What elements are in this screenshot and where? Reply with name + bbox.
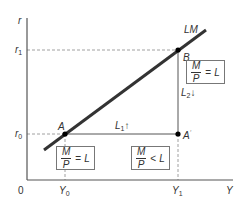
point-b — [175, 47, 180, 52]
r0-label: r0 — [15, 129, 22, 140]
y-axis-label: r — [18, 16, 21, 26]
diagram-canvas — [0, 0, 248, 207]
m-over-p: MP — [191, 61, 201, 84]
origin-label: 0 — [18, 186, 24, 196]
condition-box-b: MP = L — [186, 60, 225, 84]
lm-label: LM — [184, 25, 198, 35]
l1-label: L1↑ — [115, 121, 129, 132]
lm-diagram: r Y 0 r1 r0 Y0 Y1 LM A A′ B L1↑ L2↓ MP =… — [0, 0, 248, 207]
point-a-prime-label: A′ — [183, 129, 191, 141]
point-a-prime — [175, 131, 180, 136]
m-over-p: MP — [136, 147, 146, 170]
point-a-label: A — [58, 122, 65, 132]
condition-box-a-prime: MP < L — [131, 146, 170, 170]
y0-label: Y0 — [59, 186, 70, 197]
m-over-p: MP — [61, 147, 71, 170]
x-axis-label: Y — [226, 186, 233, 196]
l2-label: L2↓ — [181, 88, 195, 99]
condition-box-a: MP = L — [56, 146, 95, 170]
point-a — [62, 131, 67, 136]
r1-label: r1 — [15, 45, 22, 56]
y1-label: Y1 — [172, 186, 183, 197]
